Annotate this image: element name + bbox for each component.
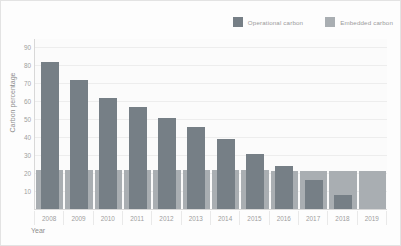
bar-slot [299, 39, 328, 209]
x-axis-tick-label: 2008 [34, 211, 64, 225]
bar-operational-carbon [187, 127, 205, 209]
bar-group [35, 39, 387, 209]
bar-operational-carbon [246, 154, 264, 209]
bar-slot [64, 39, 93, 209]
bar-embedded-carbon [359, 171, 386, 209]
x-axis-tick-label: 2009 [64, 211, 93, 225]
bar-slot [35, 39, 64, 209]
bar-operational-carbon [99, 98, 117, 209]
bar-operational-carbon [70, 80, 88, 209]
legend-item-operational-carbon: Operational carbon [233, 17, 303, 27]
bar-slot [182, 39, 211, 209]
carbon-percentage-bar-chart: Operational carbon Embedded carbon Carbo… [0, 0, 401, 246]
y-axis-tick-label: 70 [24, 80, 31, 87]
bar-slot [328, 39, 357, 209]
bar-operational-carbon [305, 180, 323, 209]
x-axis-tick-label: 2011 [123, 211, 152, 225]
chart-legend: Operational carbon Embedded carbon [1, 14, 401, 30]
bar-operational-carbon [334, 195, 352, 209]
legend-item-embedded-carbon: Embedded carbon [325, 17, 393, 27]
x-axis-tick-label: 2013 [182, 211, 211, 225]
bar-operational-carbon [41, 62, 59, 209]
y-axis-tick-label: 90 [24, 44, 31, 51]
bar-operational-carbon [275, 166, 293, 209]
bar-operational-carbon [129, 107, 147, 209]
y-axis-tick-label: 80 [24, 62, 31, 69]
legend-label-operational-carbon: Operational carbon [248, 19, 303, 26]
x-axis-tick-labels: 2008200920102011201220132014201520162017… [34, 211, 387, 225]
x-axis-tick-label: 2019 [358, 211, 387, 225]
x-axis-tick-label: 2012 [152, 211, 181, 225]
bar-slot [358, 39, 387, 209]
legend-label-embedded-carbon: Embedded carbon [340, 19, 393, 26]
y-axis-tick-label: 60 [24, 98, 31, 105]
bar-slot [123, 39, 152, 209]
bar-slot [211, 39, 240, 209]
legend-swatch-operational-carbon [233, 17, 243, 27]
plot-area: 908070605040302010 [34, 39, 387, 210]
y-axis-tick-label: 30 [24, 152, 31, 159]
x-axis-tick-label: 2010 [94, 211, 123, 225]
x-axis-tick-label: 2016 [270, 211, 299, 225]
bar-slot [240, 39, 269, 209]
x-axis-tick-label: 2015 [240, 211, 269, 225]
bar-slot [94, 39, 123, 209]
y-axis-tick-label: 10 [24, 188, 31, 195]
bar-operational-carbon [158, 118, 176, 209]
bar-slot [270, 39, 299, 209]
legend-swatch-embedded-carbon [325, 17, 335, 27]
x-axis-tick-label: 2018 [328, 211, 357, 225]
x-axis-tick-label: 2017 [299, 211, 328, 225]
y-axis-tick-label: 40 [24, 134, 31, 141]
x-axis-tick-label: 2014 [211, 211, 240, 225]
bar-operational-carbon [217, 139, 235, 209]
y-axis-tick-label: 20 [24, 170, 31, 177]
x-axis-title: Year [31, 227, 45, 234]
bar-slot [152, 39, 181, 209]
axis-baseline [35, 209, 387, 210]
y-axis-title: Carbon percentage [9, 43, 16, 163]
y-axis-tick-label: 50 [24, 116, 31, 123]
